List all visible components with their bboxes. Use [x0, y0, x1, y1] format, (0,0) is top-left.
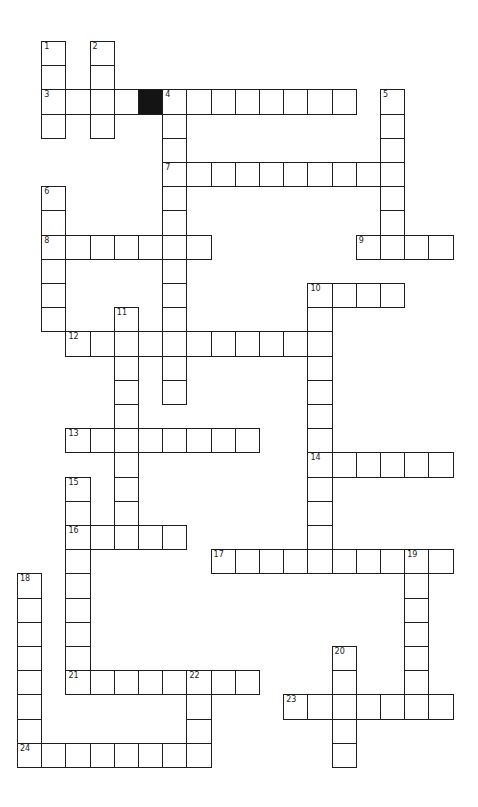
crossword-cell[interactable] [356, 549, 381, 574]
crossword-cell[interactable] [259, 89, 284, 114]
crossword-cell[interactable]: 18 [17, 573, 42, 598]
crossword-cell[interactable] [380, 694, 405, 719]
crossword-cell[interactable] [380, 162, 405, 187]
crossword-cell[interactable] [428, 452, 453, 477]
crossword-cell[interactable] [332, 452, 357, 477]
crossword-cell[interactable] [235, 549, 260, 574]
crossword-cell[interactable] [380, 549, 405, 574]
crossword-cell[interactable] [332, 549, 357, 574]
crossword-cell[interactable] [211, 331, 236, 356]
crossword-cell[interactable] [114, 501, 139, 526]
crossword-cell[interactable]: 8 [41, 235, 66, 260]
crossword-cell[interactable] [114, 428, 139, 453]
crossword-cell[interactable] [90, 331, 115, 356]
crossword-cell[interactable] [138, 525, 163, 550]
crossword-cell[interactable] [162, 259, 187, 284]
crossword-cell[interactable]: 22 [186, 670, 211, 695]
crossword-cell[interactable] [186, 162, 211, 187]
crossword-cell[interactable] [65, 235, 90, 260]
crossword-cell[interactable] [90, 235, 115, 260]
crossword-cell[interactable] [162, 138, 187, 163]
crossword-cell[interactable] [41, 210, 66, 235]
crossword-cell[interactable] [162, 235, 187, 260]
crossword-cell[interactable] [41, 259, 66, 284]
crossword-cell[interactable] [65, 89, 90, 114]
crossword-cell[interactable]: 1 [41, 41, 66, 66]
crossword-cell[interactable] [65, 501, 90, 526]
crossword-cell[interactable] [17, 598, 42, 623]
crossword-cell[interactable] [65, 549, 90, 574]
crossword-cell[interactable] [380, 138, 405, 163]
crossword-cell[interactable] [186, 235, 211, 260]
crossword-cell[interactable] [138, 235, 163, 260]
crossword-cell[interactable] [17, 670, 42, 695]
crossword-cell[interactable] [162, 331, 187, 356]
crossword-cell[interactable] [114, 477, 139, 502]
crossword-cell[interactable] [332, 743, 357, 768]
crossword-cell[interactable]: 9 [356, 235, 381, 260]
crossword-cell[interactable] [307, 307, 332, 332]
crossword-cell[interactable] [90, 428, 115, 453]
crossword-cell[interactable] [41, 65, 66, 90]
crossword-cell[interactable] [283, 89, 308, 114]
crossword-cell[interactable] [307, 380, 332, 405]
crossword-cell[interactable]: 11 [114, 307, 139, 332]
crossword-cell[interactable] [186, 743, 211, 768]
crossword-cell[interactable]: 4 [162, 89, 187, 114]
crossword-cell[interactable] [65, 743, 90, 768]
crossword-cell[interactable] [404, 646, 429, 671]
crossword-cell[interactable] [114, 525, 139, 550]
crossword-cell[interactable]: 2 [90, 41, 115, 66]
crossword-cell[interactable] [162, 428, 187, 453]
crossword-cell[interactable] [332, 89, 357, 114]
crossword-cell[interactable] [380, 186, 405, 211]
crossword-cell[interactable] [186, 89, 211, 114]
crossword-cell[interactable] [380, 283, 405, 308]
crossword-cell[interactable] [235, 162, 260, 187]
crossword-cell[interactable] [235, 89, 260, 114]
crossword-cell[interactable]: 14 [307, 452, 332, 477]
crossword-cell[interactable] [162, 380, 187, 405]
crossword-cell[interactable] [307, 404, 332, 429]
crossword-cell[interactable]: 10 [307, 283, 332, 308]
crossword-cell[interactable] [114, 380, 139, 405]
crossword-cell[interactable] [162, 283, 187, 308]
crossword-cell[interactable] [356, 283, 381, 308]
crossword-cell[interactable] [307, 356, 332, 381]
crossword-cell[interactable] [17, 694, 42, 719]
crossword-cell[interactable] [307, 549, 332, 574]
crossword-cell[interactable] [235, 670, 260, 695]
crossword-cell[interactable] [259, 331, 284, 356]
crossword-cell[interactable] [307, 477, 332, 502]
crossword-cell[interactable] [17, 622, 42, 647]
crossword-cell[interactable] [332, 283, 357, 308]
crossword-cell[interactable] [428, 549, 453, 574]
crossword-cell[interactable] [307, 694, 332, 719]
crossword-cell[interactable] [114, 356, 139, 381]
crossword-cell[interactable] [186, 331, 211, 356]
crossword-cell[interactable] [138, 743, 163, 768]
crossword-cell[interactable] [41, 307, 66, 332]
crossword-cell[interactable] [211, 428, 236, 453]
crossword-cell[interactable]: 19 [404, 549, 429, 574]
crossword-cell[interactable]: 13 [65, 428, 90, 453]
crossword-cell[interactable] [211, 162, 236, 187]
crossword-cell[interactable] [41, 743, 66, 768]
crossword-cell[interactable]: 20 [332, 646, 357, 671]
crossword-cell[interactable]: 23 [283, 694, 308, 719]
crossword-cell[interactable]: 6 [41, 186, 66, 211]
crossword-cell[interactable] [162, 356, 187, 381]
crossword-cell[interactable] [404, 598, 429, 623]
crossword-cell[interactable] [283, 331, 308, 356]
crossword-cell[interactable] [211, 89, 236, 114]
crossword-cell[interactable] [332, 162, 357, 187]
crossword-cell[interactable] [65, 598, 90, 623]
crossword-cell[interactable] [307, 331, 332, 356]
crossword-cell[interactable] [404, 573, 429, 598]
crossword-cell[interactable] [283, 549, 308, 574]
crossword-cell[interactable] [307, 162, 332, 187]
crossword-cell[interactable] [356, 452, 381, 477]
crossword-cell[interactable] [162, 114, 187, 139]
crossword-cell[interactable] [332, 670, 357, 695]
crossword-cell[interactable] [259, 162, 284, 187]
